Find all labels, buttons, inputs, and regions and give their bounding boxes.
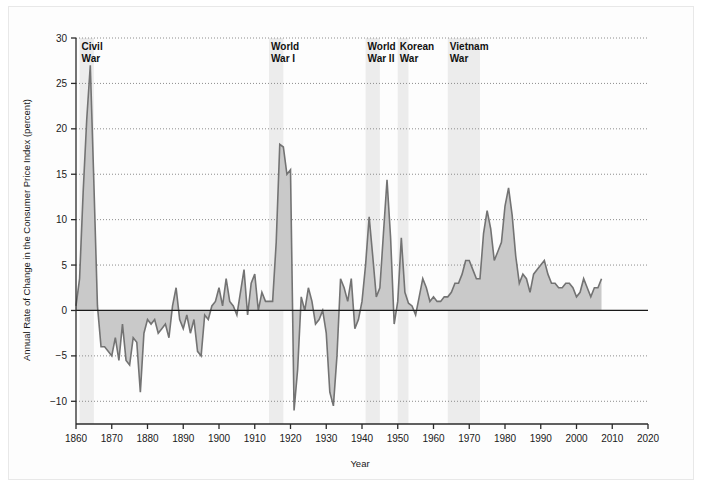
y-tick-label-10: 10: [56, 214, 68, 225]
y-axis-label: Annual Rate of Change in the Consumer Pr…: [21, 99, 32, 361]
x-tick-label-1950: 1950: [387, 433, 410, 444]
war-label-3-line2: War II: [368, 53, 395, 64]
war-label-2-line1: World: [271, 41, 299, 52]
war-label-1-line2: War: [82, 53, 101, 64]
x-tick-label-1880: 1880: [136, 433, 159, 444]
cpi-area-path: [76, 65, 602, 410]
y-tick-label-25: 25: [56, 78, 68, 89]
gridline-group: [76, 38, 648, 401]
y-tick-label--10: −10: [50, 396, 67, 407]
y-tick-label--5: −5: [56, 350, 68, 361]
war-label-3-line1: World: [368, 41, 396, 52]
x-axis-label: Year: [350, 458, 369, 469]
cpi-line: [76, 65, 602, 410]
x-tick-label-2000: 2000: [565, 433, 588, 444]
x-tick-label-2010: 2010: [601, 433, 624, 444]
war-label-5-line2: War: [450, 53, 469, 64]
x-tick-label-1890: 1890: [172, 433, 195, 444]
x-tick-group: 1860187018801890190019101920193019401950…: [65, 424, 660, 444]
x-tick-label-1940: 1940: [351, 433, 374, 444]
y-tick-label-15: 15: [56, 169, 68, 180]
y-tick-label-20: 20: [56, 123, 68, 134]
y-tick-label-5: 5: [61, 260, 67, 271]
chart-canvas: −10−5051015202530 1860187018801890190019…: [0, 0, 709, 493]
x-tick-label-1910: 1910: [244, 433, 267, 444]
y-tick-group: −10−5051015202530: [50, 33, 76, 407]
war-label-4-line1: Korean: [400, 41, 434, 52]
x-tick-label-1920: 1920: [279, 433, 302, 444]
x-tick-label-1990: 1990: [530, 433, 553, 444]
war-band-5: [448, 38, 480, 424]
war-label-5-line1: Vietnam: [450, 41, 489, 52]
war-band-4: [398, 38, 409, 424]
war-label-1-line1: Civil: [82, 41, 103, 52]
war-label-group: CivilWarWorldWar IWorldWar IIKoreanWarVi…: [82, 41, 489, 64]
y-tick-label-0: 0: [61, 305, 67, 316]
x-tick-label-1930: 1930: [315, 433, 338, 444]
x-tick-label-1870: 1870: [101, 433, 124, 444]
axis-group: [76, 38, 648, 424]
war-label-4-line2: War: [400, 53, 419, 64]
cpi-inflation-chart: −10−5051015202530 1860187018801890190019…: [0, 0, 709, 493]
x-tick-label-2020: 2020: [637, 433, 660, 444]
y-tick-label-30: 30: [56, 33, 68, 44]
x-tick-label-1960: 1960: [422, 433, 445, 444]
x-tick-label-1980: 1980: [494, 433, 517, 444]
x-tick-label-1900: 1900: [208, 433, 231, 444]
cpi-area-fill: [76, 65, 602, 410]
x-tick-label-1970: 1970: [458, 433, 481, 444]
x-tick-label-1860: 1860: [65, 433, 88, 444]
cpi-line-path: [76, 65, 602, 410]
war-label-2-line2: War I: [271, 53, 295, 64]
